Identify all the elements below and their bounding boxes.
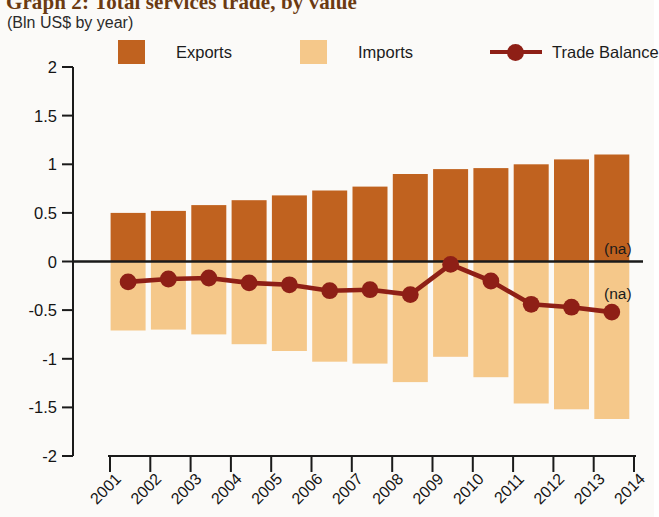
trade-balance-point bbox=[160, 271, 177, 288]
x-axis-tick-label: 2010 bbox=[450, 470, 487, 507]
x-axis-tick-label: 2014 bbox=[611, 470, 648, 507]
y-axis-tick-label: 2 bbox=[48, 58, 57, 76]
na-annotation: (na) bbox=[604, 285, 632, 302]
trade-balance-point bbox=[442, 256, 459, 273]
x-axis-tick-label: 2012 bbox=[530, 470, 567, 507]
y-axis-tick-label: 0.5 bbox=[34, 204, 57, 222]
trade-balance-point bbox=[563, 299, 580, 316]
bar-imports bbox=[272, 262, 307, 352]
bar-imports bbox=[393, 262, 428, 383]
x-axis-tick-label: 2001 bbox=[87, 470, 124, 507]
y-axis-tick-label: 0 bbox=[48, 253, 57, 271]
bar-imports bbox=[514, 262, 549, 404]
x-axis-tick-label: 2013 bbox=[571, 470, 608, 507]
bar-exports bbox=[312, 191, 347, 262]
y-axis-tick-label: 1 bbox=[48, 155, 57, 173]
trade-balance-point bbox=[402, 286, 419, 303]
trade-balance-point bbox=[321, 282, 338, 299]
y-axis-tick-label: 1.5 bbox=[34, 107, 57, 125]
bar-imports bbox=[232, 262, 267, 345]
y-axis-tick-label: -0.5 bbox=[29, 301, 57, 319]
trade-balance-point bbox=[603, 304, 620, 321]
bar-exports bbox=[393, 174, 428, 262]
bar-imports bbox=[312, 262, 347, 362]
x-axis-tick-label: 2005 bbox=[248, 470, 285, 507]
y-axis-tick-label: -1.5 bbox=[29, 398, 57, 416]
trade-balance-point bbox=[523, 296, 540, 313]
na-annotation: (na) bbox=[604, 240, 632, 257]
x-axis-tick-label: 2004 bbox=[208, 470, 245, 507]
trade-balance-point bbox=[120, 274, 137, 291]
x-axis-tick-label: 2002 bbox=[127, 470, 164, 507]
bar-exports bbox=[514, 164, 549, 261]
x-axis-tick-label: 2007 bbox=[329, 470, 366, 507]
bar-exports bbox=[554, 159, 589, 261]
y-axis-tick-label: -1 bbox=[42, 350, 57, 368]
bar-imports bbox=[554, 262, 589, 410]
bar-exports bbox=[151, 211, 186, 262]
trade-balance-point bbox=[281, 276, 298, 293]
bar-exports bbox=[191, 205, 226, 261]
x-axis-tick-label: 2006 bbox=[288, 470, 325, 507]
bar-exports bbox=[232, 200, 267, 261]
bar-exports bbox=[433, 169, 468, 261]
bar-imports bbox=[111, 262, 146, 331]
x-axis-tick-label: 2003 bbox=[168, 470, 205, 507]
bar-exports bbox=[353, 187, 388, 262]
bar-exports bbox=[111, 213, 146, 262]
trade-balance-point bbox=[483, 273, 500, 290]
bar-exports bbox=[272, 195, 307, 261]
bar-imports bbox=[353, 262, 388, 364]
trade-balance-point bbox=[200, 270, 217, 287]
x-axis-tick-label: 2011 bbox=[491, 470, 527, 506]
y-axis-tick-label: -2 bbox=[42, 447, 57, 465]
bar-exports bbox=[473, 168, 508, 261]
trade-balance-point bbox=[362, 281, 379, 298]
x-axis-tick-label: 2008 bbox=[369, 470, 406, 507]
trade-balance-point bbox=[241, 275, 258, 292]
x-axis-tick-label: 2009 bbox=[409, 470, 446, 507]
